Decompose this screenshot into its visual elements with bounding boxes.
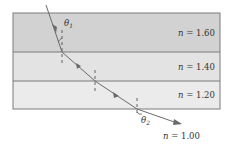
ray-arrow-4 — [173, 119, 182, 125]
theta2-arc — [137, 112, 142, 114]
refraction-diagram: θ1 θ2 n = 1.60 n = 1.40 n = 1.20 n = 1.0… — [0, 0, 232, 148]
label-n100: n = 1.00 — [163, 131, 200, 141]
label-n120: n = 1.20 — [178, 90, 215, 100]
label-n140: n = 1.40 — [178, 62, 215, 72]
theta2-label: θ2 — [141, 115, 150, 126]
label-n160: n = 1.60 — [178, 28, 215, 38]
